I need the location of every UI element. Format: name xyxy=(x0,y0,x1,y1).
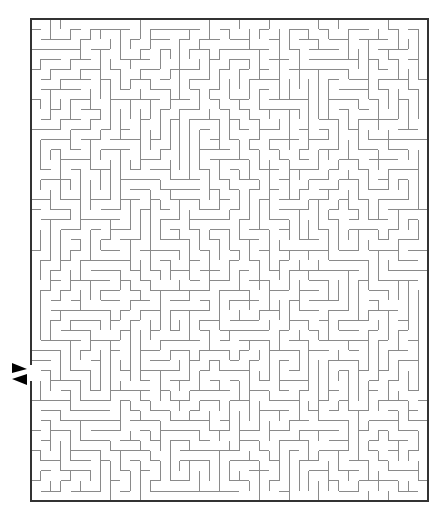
maze xyxy=(0,0,446,522)
maze-walls xyxy=(31,19,428,501)
maze-wall-lines xyxy=(31,19,428,501)
exit-arrow-out-icon xyxy=(12,374,27,385)
entrance-arrow-in-icon xyxy=(12,363,27,373)
